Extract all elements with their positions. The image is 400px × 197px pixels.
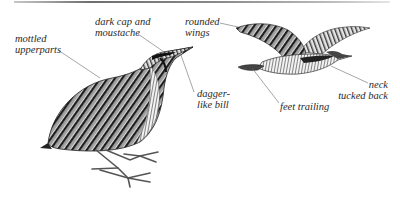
label-line: wings [185,27,220,38]
label-rounded-wings: rounded wings [185,16,220,38]
label-dark-cap: dark cap and moustache [95,16,150,38]
label-line: dagger- [197,88,230,99]
leader-wings [220,23,238,27]
leader-feet [252,68,279,103]
label-line: moustache [95,27,150,38]
label-line: mottled [15,33,61,44]
label-line: dark cap and [95,16,150,27]
label-neck-tucked: neck tucked back [330,79,388,101]
label-mottled-upperparts: mottled upperparts [15,33,61,55]
label-line: rounded [185,16,220,27]
label-line: feet trailing [280,101,329,112]
leader-mottled [58,50,100,78]
label-line: tucked back [330,90,388,101]
label-line: neck [330,79,388,90]
standing-bittern [40,47,193,187]
flying-bittern [236,24,370,74]
label-line: upperparts [15,44,61,55]
label-line: like bill [197,99,230,110]
label-feet-trailing: feet trailing [280,101,329,112]
leader-bill [181,55,194,92]
label-dagger-bill: dagger- like bill [197,88,230,110]
